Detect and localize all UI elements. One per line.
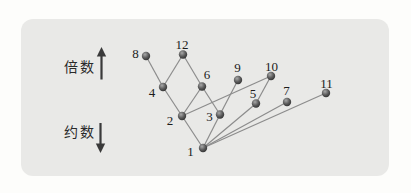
node-label-11: 11 [320,76,333,91]
node-label-2: 2 [167,113,174,128]
node-2 [178,112,186,120]
node-label-12: 12 [176,37,189,52]
node-9 [234,76,242,84]
edge-1-11 [203,93,326,148]
node-label-5: 5 [250,86,257,101]
node-6 [198,82,206,90]
edge-4-8 [146,56,163,87]
node-label-3: 3 [206,109,213,124]
node-1 [199,144,207,152]
node-label-10: 10 [265,59,278,74]
edge-2-4 [163,87,182,116]
edge-5-10 [256,76,271,104]
node-label-1: 1 [187,144,194,159]
node-4 [159,83,167,91]
divisibility-graph: 123456789101112 [0,0,411,193]
edge-6-12 [183,55,202,87]
node-label-9: 9 [234,60,241,75]
node-label-7: 7 [283,83,290,98]
figure-page: 倍数 约数 123456789101112 [0,0,411,193]
edge-4-12 [163,55,183,88]
node-8 [142,52,150,60]
node-3 [216,110,224,118]
node-7 [283,98,291,106]
node-label-4: 4 [149,85,156,100]
node-label-8: 8 [132,46,139,61]
node-label-6: 6 [204,67,211,82]
edge-1-7 [203,102,287,148]
